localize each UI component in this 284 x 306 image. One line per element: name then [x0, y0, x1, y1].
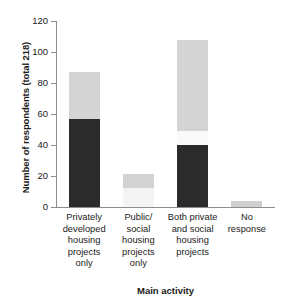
- bar: [123, 174, 154, 207]
- bar-segment: [69, 119, 100, 207]
- bar-segment: [69, 72, 100, 119]
- category-label-line: projects: [158, 247, 228, 259]
- x-axis-spine: [56, 207, 275, 208]
- bar-segment: [177, 131, 208, 145]
- bar: [231, 201, 262, 207]
- plot-area: [57, 21, 274, 207]
- bar: [177, 40, 208, 207]
- bar-segment: [177, 145, 208, 207]
- bar: [69, 72, 100, 207]
- y-axis-tick-label: 80: [18, 78, 48, 88]
- x-axis-category-label: Noresponse: [212, 212, 282, 235]
- bar-segment: [177, 40, 208, 131]
- y-axis-tick-label: 60: [18, 109, 48, 119]
- bar-segment: [123, 188, 154, 207]
- bar-chart-figure: Number of respondents (total 218) 020406…: [0, 0, 284, 306]
- x-axis-title: Main activity: [56, 285, 275, 296]
- bar-segment: [231, 201, 262, 207]
- category-label-line: No: [212, 212, 282, 224]
- category-label-line: response: [212, 224, 282, 236]
- y-axis-tick-label: 0: [18, 202, 48, 212]
- y-axis-tick-label: 20: [18, 171, 48, 181]
- category-label-line: housing: [158, 235, 228, 247]
- y-axis-tick-label: 40: [18, 140, 48, 150]
- category-label-line: only: [103, 258, 173, 270]
- bar-segment: [123, 174, 154, 188]
- y-axis-tick-label: 120: [18, 16, 48, 26]
- y-axis-tick-mark: [51, 207, 57, 208]
- y-axis-tick-label: 100: [18, 47, 48, 57]
